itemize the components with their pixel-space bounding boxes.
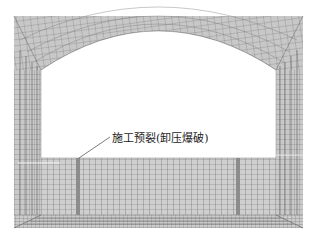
pre-split-strip-left xyxy=(76,158,80,215)
floor-band xyxy=(14,215,303,228)
mesh-diagram: 施工预裂(卸压爆破) xyxy=(0,0,315,251)
pre-split-strip-right xyxy=(236,158,240,215)
annotation-label: 施工预裂(卸压爆破) xyxy=(112,129,209,145)
